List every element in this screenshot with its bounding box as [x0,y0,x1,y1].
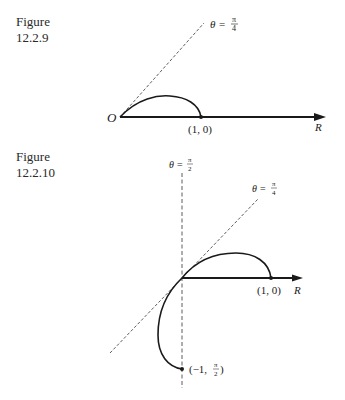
figures-canvas: O (1, 0) R θ = π 4 (1, 0) R θ = π [0,0,345,400]
svg-text:4: 4 [232,24,236,33]
point-1-0 [269,276,273,280]
svg-text:): ) [220,363,224,376]
point-minus1-pi-over-2 [180,367,184,371]
svg-text:π: π [188,156,192,164]
svg-text:=: = [177,159,183,170]
svg-text:4: 4 [272,189,276,197]
polar-curve-upper [182,253,271,278]
svg-text:π: π [272,180,276,188]
svg-text:θ: θ [252,183,257,194]
point-label: (1, 0) [188,123,212,136]
arrowhead-icon [292,275,303,282]
svg-text:(−1,: (−1, [189,363,207,376]
svg-text:θ: θ [210,18,216,30]
svg-text:π: π [214,361,218,369]
figure-12-2-10-diagram: (1, 0) R θ = π 2 θ = π 4 (−1, π 2 ) [110,156,303,388]
svg-text:2: 2 [188,165,192,173]
ray-label-pi-over-4: θ = π 4 [252,180,277,197]
figure-12-2-9-diagram: O (1, 0) R θ = π 4 [107,15,326,136]
arrowhead-icon [314,113,326,121]
axis-label: R [314,121,322,133]
point-1-0 [199,115,203,119]
point-label: (1, 0) [257,284,281,297]
svg-text:π: π [232,15,236,24]
svg-text:θ: θ [169,159,174,170]
origin-label: O [107,110,117,125]
axis-label: R [293,284,301,296]
svg-text:=: = [260,183,266,194]
svg-text:=: = [219,18,225,30]
end-point-label: (−1, π 2 ) [189,361,224,378]
vertical-label-pi-over-2: θ = π 2 [169,156,193,173]
svg-text:2: 2 [214,370,218,378]
polar-curve-lower [158,278,182,369]
polar-curve [120,96,201,117]
ray-label-pi-over-4: θ = π 4 [210,15,238,33]
